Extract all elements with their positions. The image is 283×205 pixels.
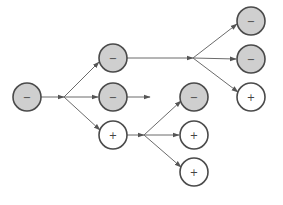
node-c1-negative: − — [180, 83, 208, 111]
node-label: − — [247, 16, 255, 27]
node-b3-positive: + — [237, 83, 265, 111]
branching-diagram: − − − + − − + − + + — [0, 0, 283, 205]
node-b2-negative: − — [237, 45, 265, 73]
node-label: + — [190, 130, 198, 141]
edge-a3-to-c3 — [144, 135, 181, 167]
node-a3-positive: + — [99, 121, 127, 149]
node-label: − — [109, 53, 117, 64]
edge-root-to-a3 — [64, 97, 100, 130]
node-a2-negative: − — [99, 83, 127, 111]
node-label: + — [247, 92, 255, 103]
node-label: − — [190, 92, 198, 103]
edge-a1-to-b1 — [193, 24, 237, 58]
node-label: + — [190, 167, 198, 178]
edge-a1-to-b2 — [193, 58, 236, 59]
node-root-negative: − — [13, 83, 41, 111]
node-c2-positive: + — [180, 121, 208, 149]
node-label: − — [247, 54, 255, 65]
node-c3-positive: + — [180, 158, 208, 186]
node-label: + — [109, 130, 117, 141]
node-label: − — [23, 92, 31, 103]
node-b1-negative: − — [237, 7, 265, 35]
edge-a3-to-c1 — [144, 101, 181, 135]
node-a1-negative: − — [99, 44, 127, 72]
edge-root-to-a1 — [64, 62, 99, 97]
node-label: − — [109, 92, 117, 103]
